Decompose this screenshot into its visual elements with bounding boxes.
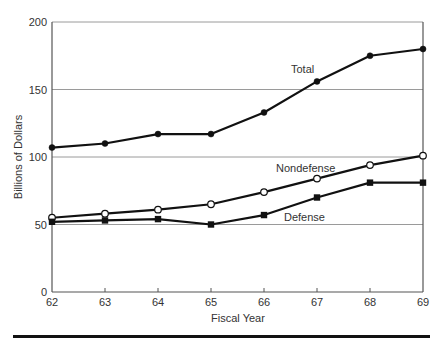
y-tick-150: 150: [29, 84, 47, 96]
series-defense: [49, 179, 426, 227]
data-point-marker: [49, 145, 55, 151]
data-point-marker: [102, 210, 109, 217]
data-point-marker: [367, 179, 373, 185]
series-total: [49, 46, 426, 151]
data-point-marker: [49, 219, 55, 225]
y-tick-200: 200: [29, 16, 47, 28]
y-axis-title: Billions of Dollars: [12, 114, 24, 199]
x-tick-65: 65: [205, 296, 217, 308]
data-point-marker: [102, 217, 108, 223]
x-tick-68: 68: [364, 296, 376, 308]
bottom-rule: [13, 335, 430, 338]
x-axis-title: Fiscal Year: [211, 312, 265, 324]
data-point-marker: [261, 212, 267, 218]
data-point-marker: [314, 78, 320, 84]
x-tick-63: 63: [99, 296, 111, 308]
data-point-marker: [208, 221, 214, 227]
x-tick-labels: 62 63 64 65 66 67 68 69: [46, 296, 429, 308]
data-point-marker: [367, 53, 373, 59]
x-tick-69: 69: [417, 296, 429, 308]
x-tick-64: 64: [152, 296, 164, 308]
data-point-marker: [314, 175, 321, 182]
series-label-total: Total: [291, 63, 314, 75]
data-point-marker: [314, 194, 320, 200]
data-point-marker: [102, 141, 108, 147]
data-point-marker: [155, 216, 161, 222]
y-tick-labels: 200 150 100 50 0: [29, 16, 47, 298]
series-label-nondefense: Nondefense: [276, 162, 335, 174]
y-tick-100: 100: [29, 151, 47, 163]
data-point-marker: [261, 109, 267, 115]
series-nondefense: [49, 152, 427, 221]
data-point-marker: [420, 46, 426, 52]
data-point-marker: [208, 131, 214, 137]
line-chart: 200 150 100 50 0 62 63 64 65 66 67 68 69…: [0, 0, 444, 339]
data-point-marker: [420, 152, 427, 159]
data-point-marker: [367, 162, 374, 169]
data-point-marker: [155, 206, 162, 213]
data-point-marker: [155, 131, 161, 137]
y-tick-50: 50: [35, 219, 47, 231]
x-tick-67: 67: [311, 296, 323, 308]
series-layer: [49, 46, 427, 228]
x-tick-66: 66: [258, 296, 270, 308]
data-point-marker: [208, 201, 215, 208]
data-point-marker: [420, 179, 426, 185]
x-tick-62: 62: [46, 296, 58, 308]
series-label-defense: Defense: [284, 211, 325, 223]
data-point-marker: [261, 189, 268, 196]
